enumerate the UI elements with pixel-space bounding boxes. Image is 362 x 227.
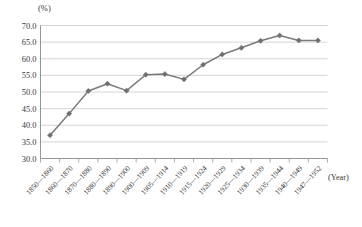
y-axis-tick-label: 35.0 xyxy=(22,137,37,147)
x-axis-unit-label: (Year) xyxy=(328,173,349,182)
y-axis-tick-label: 50.0 xyxy=(22,87,37,97)
y-axis-tick-labels: 30.035.040.045.050.055.060.065.070.0 xyxy=(22,21,37,164)
y-axis-tick-label: 60.0 xyxy=(22,54,37,64)
chart-container: 30.035.040.045.050.055.060.065.070.0 185… xyxy=(0,0,362,227)
x-axis-tick-marks xyxy=(41,159,328,163)
y-axis-tick-label: 55.0 xyxy=(22,70,37,80)
y-axis-tick-label: 30.0 xyxy=(22,154,37,164)
y-axis-tick-label: 45.0 xyxy=(22,104,37,114)
x-axis-tick-labels: 1850—18601860—18701870—18801880—18901890… xyxy=(24,163,324,196)
y-axis-tick-label: 40.0 xyxy=(22,120,37,130)
y-axis-tick-label: 65.0 xyxy=(22,37,37,47)
line-chart: 30.035.040.045.050.055.060.065.070.0 185… xyxy=(0,0,362,227)
gridlines xyxy=(41,26,328,142)
data-point-marker xyxy=(162,71,167,76)
data-point-marker xyxy=(258,38,263,43)
data-point-marker xyxy=(239,45,244,50)
y-axis-tick-label: 70.0 xyxy=(22,21,37,31)
series-markers xyxy=(47,33,320,138)
y-axis-unit-label: (%) xyxy=(38,3,51,13)
data-point-marker xyxy=(105,81,110,86)
data-point-marker xyxy=(277,33,282,38)
series-line xyxy=(50,35,318,135)
